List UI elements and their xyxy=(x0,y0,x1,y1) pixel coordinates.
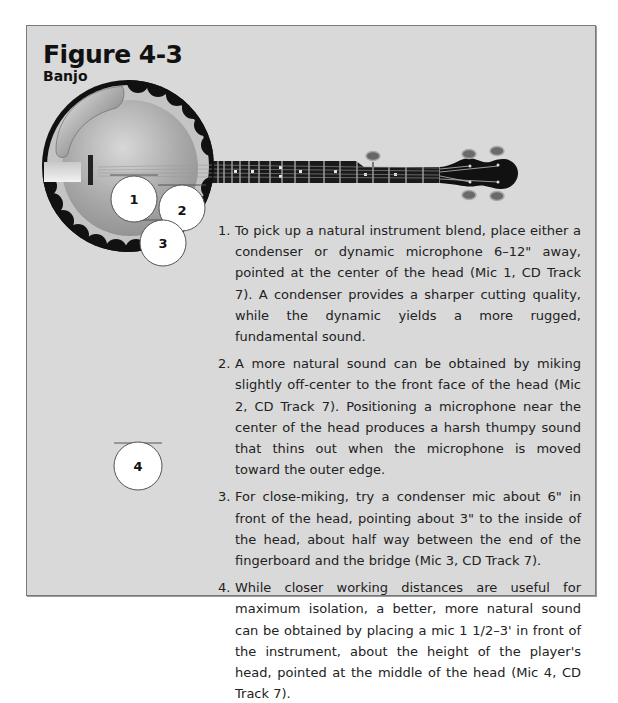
step-item: 1. To pick up a natural instrument blend… xyxy=(218,220,581,347)
svg-text:3: 3 xyxy=(158,236,167,251)
miking-steps: 1. To pick up a natural instrument blend… xyxy=(218,220,581,703)
bridge xyxy=(88,155,93,185)
step-text: A more natural sound can be obtained by … xyxy=(235,356,581,477)
mic-3: 3 xyxy=(140,220,186,266)
tailpiece xyxy=(44,162,81,182)
step-item: 4. While closer working distances are us… xyxy=(218,577,581,703)
step-item: 3. For close-miking, try a condenser mic… xyxy=(218,486,581,571)
banjo-headstock xyxy=(440,147,518,201)
svg-text:4: 4 xyxy=(133,459,142,474)
step-number: 4. xyxy=(218,577,230,598)
step-text: To pick up a natural instrument blend, p… xyxy=(235,223,581,344)
step-number: 2. xyxy=(218,353,230,374)
step-text: For close-miking, try a condenser mic ab… xyxy=(235,489,581,568)
step-text: While closer working distances are usefu… xyxy=(235,580,581,701)
step-number: 1. xyxy=(218,220,230,241)
mic-1: 1 xyxy=(111,176,157,222)
svg-text:1: 1 xyxy=(129,192,138,207)
step-item: 2. A more natural sound can be obtained … xyxy=(218,353,581,480)
fifth-string-peg xyxy=(366,152,380,168)
banjo-pot xyxy=(35,71,223,261)
mic-4: 4 xyxy=(114,442,162,490)
banjo-neck xyxy=(212,161,440,183)
step-number: 3. xyxy=(218,486,230,507)
svg-text:2: 2 xyxy=(177,203,186,218)
